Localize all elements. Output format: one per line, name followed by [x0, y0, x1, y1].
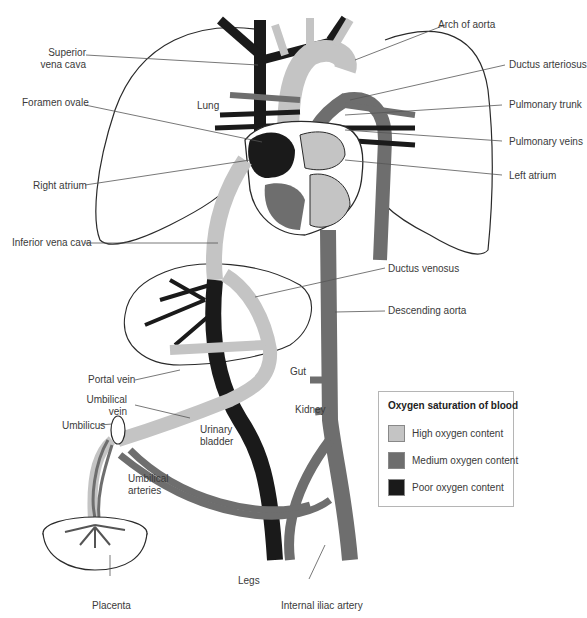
label-line: vein [80, 406, 127, 418]
label-line: Umbilical [80, 394, 127, 406]
label-placenta: Placenta [92, 600, 131, 612]
swatch-poor-oxygen [388, 479, 405, 496]
label-descending-aorta: Descending aorta [388, 305, 466, 317]
legend-item-medium: Medium oxygen content [388, 451, 518, 469]
label-umbilical-vein: Umbilical vein [80, 394, 127, 418]
label-right-atrium: Right atrium [33, 180, 87, 192]
label-ductus-arteriosus: Ductus arteriosus [509, 59, 587, 71]
legend-label: Poor oxygen content [412, 482, 504, 493]
label-line: arteries [128, 485, 169, 497]
label-ductus-venosus: Ductus venosus [388, 263, 459, 275]
label-lung: Lung [197, 100, 219, 112]
swatch-high-oxygen [388, 425, 405, 442]
label-superior-vena-cava: Superior vena cava [26, 47, 86, 71]
label-line: Umbilical [128, 473, 169, 485]
label-gut: Gut [290, 366, 306, 378]
umbilicus [111, 416, 125, 444]
legend-title: Oxygen saturation of blood [388, 400, 518, 411]
legend-item-high: High oxygen content [388, 424, 503, 442]
label-portal-vein: Portal vein [88, 374, 135, 386]
label-inferior-vena-cava: Inferior vena cava [12, 237, 92, 249]
legend-item-poor: Poor oxygen content [388, 478, 504, 496]
legend-label: Medium oxygen content [412, 455, 518, 466]
legend-label: High oxygen content [412, 428, 503, 439]
label-arch-of-aorta: Arch of aorta [438, 19, 495, 31]
label-line: bladder [200, 436, 233, 448]
label-line: Urinary [200, 424, 233, 436]
label-left-atrium: Left atrium [509, 170, 556, 182]
label-legs: Legs [238, 575, 260, 587]
label-umbilical-arteries: Umbilical arteries [128, 473, 169, 497]
label-pulmonary-trunk: Pulmonary trunk [509, 99, 582, 111]
label-kidney: Kidney [295, 404, 326, 416]
label-line: vena cava [26, 59, 86, 71]
label-line: Superior [26, 47, 86, 59]
label-foramen-ovale: Foramen ovale [22, 97, 89, 109]
label-urinary-bladder: Urinary bladder [200, 424, 233, 448]
label-internal-iliac-artery: Internal iliac artery [281, 600, 363, 612]
label-umbilicus: Umbilicus [62, 420, 105, 432]
label-pulmonary-veins: Pulmonary veins [509, 136, 583, 148]
legend: Oxygen saturation of blood High oxygen c… [378, 391, 514, 507]
swatch-medium-oxygen [388, 452, 405, 469]
